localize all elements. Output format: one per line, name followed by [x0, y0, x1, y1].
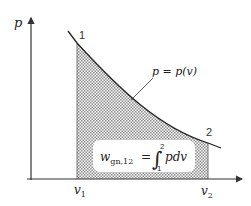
formula-equals: =	[141, 150, 151, 164]
point-2-label: 2	[206, 126, 212, 138]
v2-label: v2	[201, 184, 213, 200]
curve-label-leader	[131, 78, 153, 100]
v1-sub: 1	[81, 190, 86, 199]
v2-sub: 2	[208, 191, 213, 200]
y-axis-label: p	[14, 15, 23, 30]
curve-label: p = p(v)	[152, 65, 197, 78]
v1-label: v1	[74, 183, 86, 199]
pv-diagram: p 1 2 p = p(v) v1 v2 wgn,12 = ∫ 2 1 pdv	[0, 0, 251, 206]
formula-integrand: pdv	[165, 150, 187, 164]
formula-lhs-sub: gn,12	[110, 157, 133, 166]
formula-lower-limit: 1	[157, 164, 162, 173]
point-1-label: 1	[79, 29, 85, 41]
